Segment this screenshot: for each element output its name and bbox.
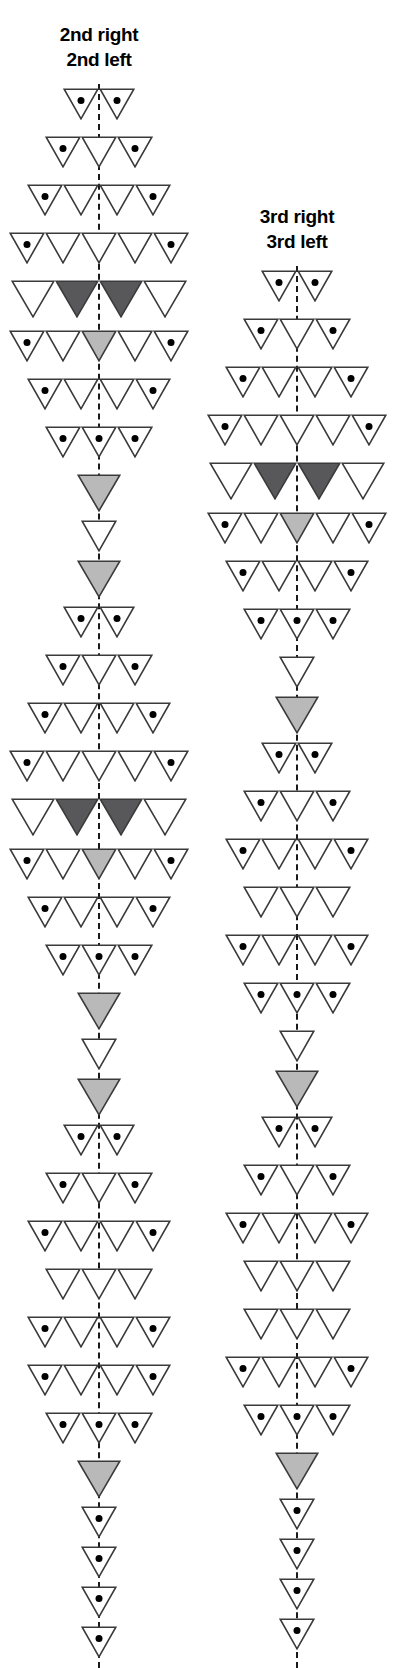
triangle-icon	[207, 414, 243, 446]
center-dot-icon	[150, 193, 157, 200]
triangle-icon	[27, 378, 63, 410]
center-dot-icon	[60, 435, 67, 442]
triangle-icon	[279, 1260, 315, 1292]
triangle-icon	[225, 366, 261, 398]
triangle-dark	[55, 798, 99, 836]
triangle-row	[0, 944, 198, 978]
triangle-row	[0, 1546, 198, 1580]
triangle-dark	[297, 462, 341, 500]
triangle-dot	[135, 184, 171, 216]
triangle-icon	[225, 560, 261, 592]
triangle-icon	[333, 934, 369, 966]
triangle-empty	[279, 318, 315, 350]
triangle-icon	[99, 1124, 135, 1156]
triangle-icon	[315, 318, 351, 350]
triangle-icon	[81, 1172, 117, 1204]
triangle-icon	[297, 1116, 333, 1148]
triangle-row	[0, 1124, 198, 1158]
center-dot-icon	[132, 435, 139, 442]
center-dot-icon	[330, 991, 337, 998]
triangle-row	[0, 1506, 198, 1540]
triangle-icon	[63, 1220, 99, 1252]
triangle-empty	[243, 1308, 279, 1340]
triangle-empty	[261, 1212, 297, 1244]
triangle-icon	[279, 1030, 315, 1062]
triangle-empty	[117, 750, 153, 782]
triangle-row	[0, 330, 198, 364]
triangle-icon	[63, 88, 99, 120]
triangle-icon	[99, 1316, 135, 1348]
triangle-icon	[9, 750, 45, 782]
triangle-row	[0, 560, 198, 594]
center-dot-icon	[240, 569, 247, 576]
triangle-icon	[117, 232, 153, 264]
triangle-icon	[333, 366, 369, 398]
triangle-row	[0, 88, 198, 122]
triangle-icon	[45, 426, 81, 458]
triangle-dot	[225, 934, 261, 966]
triangle-icon	[81, 1268, 117, 1300]
triangle-row	[198, 1452, 396, 1486]
triangle-dot	[81, 1506, 117, 1538]
triangle-icon	[117, 1172, 153, 1204]
triangle-empty	[279, 886, 315, 918]
triangle-empty	[45, 1268, 81, 1300]
triangle-icon	[315, 1260, 351, 1292]
triangle-icon	[45, 1268, 81, 1300]
triangle-dot	[27, 1220, 63, 1252]
center-dot-icon	[258, 617, 265, 624]
triangle-row	[0, 426, 198, 460]
triangle-row	[0, 280, 198, 314]
center-dot-icon	[276, 279, 283, 286]
triangle-dot	[243, 608, 279, 640]
triangle-icon	[135, 1316, 171, 1348]
triangle-dot	[333, 366, 369, 398]
center-dot-icon	[168, 339, 175, 346]
caption-line-left: 3rd left	[198, 229, 396, 254]
triangle-dot	[81, 1626, 117, 1658]
triangle-icon	[45, 654, 81, 686]
triangle-icon	[243, 1308, 279, 1340]
center-dot-icon	[24, 857, 31, 864]
triangle-empty	[11, 798, 55, 836]
triangle-icon	[261, 1116, 297, 1148]
triangle-icon	[297, 742, 333, 774]
triangle-icon	[63, 896, 99, 928]
triangle-icon	[81, 750, 117, 782]
triangle-empty	[45, 750, 81, 782]
triangle-dot	[333, 838, 369, 870]
center-dot-icon	[312, 1125, 319, 1132]
center-dot-icon	[348, 375, 355, 382]
triangle-icon	[99, 378, 135, 410]
triangle-dot	[81, 944, 117, 976]
triangle-dot	[243, 1404, 279, 1436]
triangle-light	[77, 1460, 121, 1498]
center-dot-icon	[294, 1587, 301, 1594]
triangle-empty	[243, 512, 279, 544]
triangle-icon	[297, 560, 333, 592]
triangle-icon	[243, 318, 279, 350]
triangle-empty	[279, 1308, 315, 1340]
triangle-row	[198, 1030, 396, 1064]
triangle-icon	[261, 742, 297, 774]
triangle-icon	[225, 838, 261, 870]
triangle-empty	[99, 896, 135, 928]
triangle-icon	[261, 838, 297, 870]
center-dot-icon	[150, 905, 157, 912]
triangle-dot	[225, 560, 261, 592]
center-dot-icon	[42, 711, 49, 718]
triangle-icon	[55, 280, 99, 318]
triangle-icon	[11, 280, 55, 318]
triangle-empty	[81, 654, 117, 686]
triangle-empty	[279, 790, 315, 822]
triangle-dot	[315, 790, 351, 822]
triangle-icon	[135, 896, 171, 928]
triangle-icon	[297, 1212, 333, 1244]
triangle-icon	[279, 1538, 315, 1570]
triangle-dot	[81, 426, 117, 458]
center-dot-icon	[60, 663, 67, 670]
triangle-icon	[297, 1356, 333, 1388]
center-dot-icon	[150, 711, 157, 718]
triangle-icon	[9, 848, 45, 880]
center-dot-icon	[78, 615, 85, 622]
